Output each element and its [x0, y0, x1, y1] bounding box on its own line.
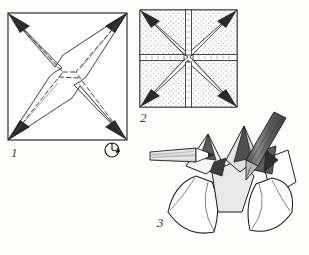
step-label-1: 1 — [11, 145, 18, 161]
step-label-3: 3 — [157, 215, 164, 231]
rotate-arrow-icon — [105, 143, 120, 157]
diagram-canvas — [0, 0, 309, 255]
step-label-2: 2 — [140, 110, 147, 126]
step-2-figure — [140, 10, 237, 107]
step-1-figure — [8, 13, 127, 140]
origami-diagram-page: 1 2 3 — [0, 0, 309, 255]
step-3-figure — [150, 112, 296, 233]
